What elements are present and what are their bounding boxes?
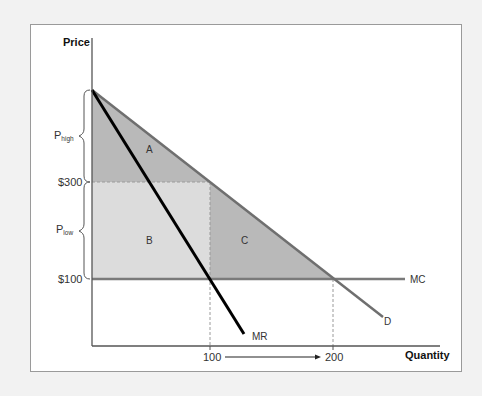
- x-axis-label: Quantity: [405, 349, 450, 361]
- price-300-label: $300: [58, 176, 82, 188]
- arrow-head-icon: [315, 355, 321, 360]
- area-a-label: A: [146, 144, 153, 155]
- area-c-label: C: [241, 235, 248, 246]
- quantity-100-label: 100: [203, 351, 221, 363]
- mc-label: MC: [410, 274, 426, 285]
- p-low-label: Plow: [56, 223, 73, 236]
- demand-label: D: [384, 316, 391, 327]
- brace-low-icon: [79, 182, 90, 279]
- area-b-label: B: [146, 235, 153, 246]
- quantity-200-label: 200: [325, 351, 343, 363]
- y-axis-label: Price: [63, 36, 90, 48]
- area-b: [92, 182, 210, 279]
- price-100-label: $100: [58, 273, 82, 285]
- price-discrimination-diagram: Price Quantity $300 $100 Phigh Plow 100 …: [0, 0, 482, 396]
- mr-label: MR: [252, 331, 268, 342]
- p-high-label: Phigh: [54, 129, 74, 143]
- brace-high-icon: [79, 90, 90, 182]
